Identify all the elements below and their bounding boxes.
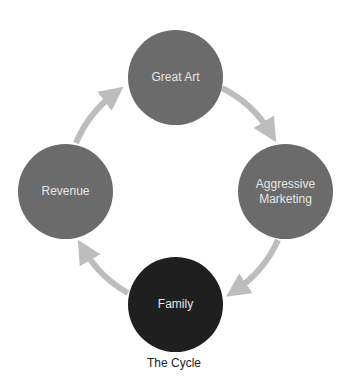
node-label: Aggressive Marketing — [251, 177, 321, 207]
node-aggressive-marketing: Aggressive Marketing — [238, 144, 333, 239]
node-great-art: Great Art — [128, 30, 223, 125]
arrow-greatart-to-marketing — [222, 88, 270, 132]
node-revenue: Revenue — [18, 144, 113, 239]
node-family: Family — [128, 257, 223, 352]
node-label: Revenue — [41, 184, 89, 199]
node-label: Great Art — [151, 70, 199, 85]
diagram-caption: The Cycle — [0, 356, 348, 370]
arrow-revenue-to-greatart — [76, 94, 114, 143]
node-label: Family — [158, 297, 193, 312]
arrow-family-to-revenue — [84, 250, 128, 293]
arrow-marketing-to-family — [236, 240, 278, 290]
